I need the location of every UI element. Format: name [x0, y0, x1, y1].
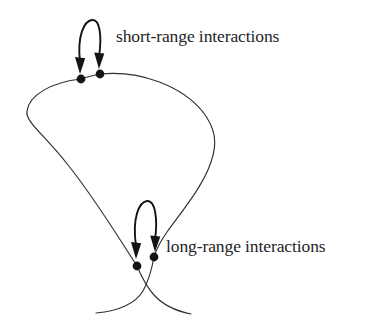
contact-dot-upper-right: [96, 70, 105, 79]
chain-loop-left-arc: [27, 79, 137, 266]
long-range-arrowhead-right: [150, 236, 160, 253]
contact-dot-upper-left: [77, 75, 86, 84]
chain-loop-top-arc: [81, 73, 203, 112]
short-range-label: short-range interactions: [116, 28, 279, 46]
long-range-arrowhead-left: [131, 242, 141, 259]
contact-dot-lower-left: [133, 262, 142, 271]
diagram-figure: short-range interactions long-range inte…: [0, 0, 377, 325]
chain-tail-right: [137, 266, 191, 314]
short-range-arrowhead-right: [94, 53, 104, 70]
long-range-label: long-range interactions: [166, 238, 326, 256]
chain-tail-left: [96, 257, 154, 313]
short-range-arrowhead-left: [75, 57, 85, 74]
diagram-canvas: [0, 0, 377, 325]
contact-dot-lower-right: [150, 253, 159, 262]
